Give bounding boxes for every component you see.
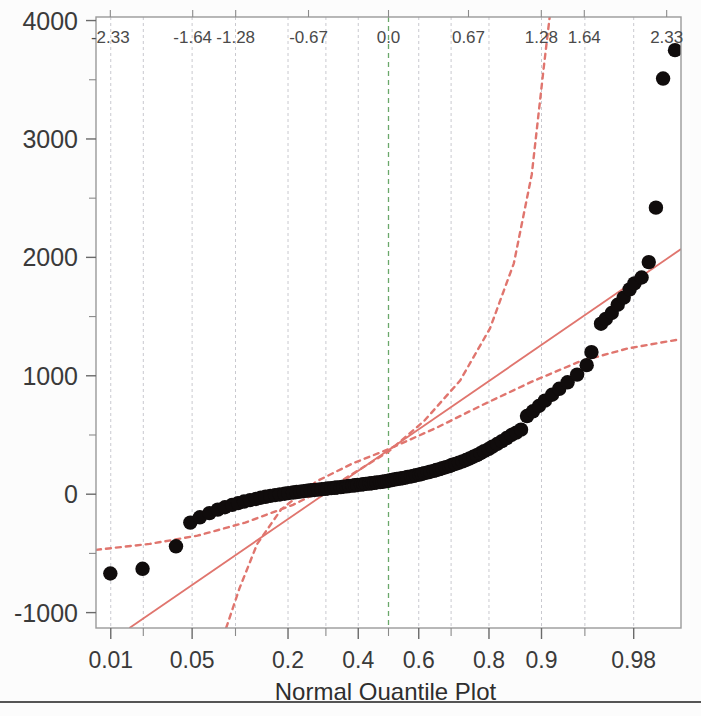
y-tick-label: -1000: [14, 599, 78, 627]
x-tick-label: 0.6: [403, 647, 435, 673]
data-point: [514, 422, 528, 436]
data-point: [135, 562, 149, 576]
y-tick-label: 2000: [22, 243, 78, 271]
x-tick-label: 0.01: [88, 647, 133, 673]
data-point: [579, 358, 593, 372]
top-tick-label: -2.33: [91, 28, 130, 47]
data-point: [103, 566, 117, 580]
top-tick-label: 1.28: [525, 28, 558, 47]
y-tick-label: 1000: [22, 362, 78, 390]
x-tick-label: 0.98: [611, 647, 656, 673]
data-point: [584, 345, 598, 359]
y-tick-label: 0: [64, 480, 78, 508]
top-tick-label: -1.28: [216, 28, 255, 47]
top-tick-label: -0.67: [289, 28, 328, 47]
top-tick-label: 0.67: [452, 28, 485, 47]
plot-area: 40003000200010000-10000.010.050.20.40.60…: [0, 0, 701, 700]
top-tick-label: -1.64: [173, 28, 212, 47]
data-point: [656, 71, 670, 85]
y-tick-label: 3000: [22, 125, 78, 153]
x-tick-label: 0.8: [473, 647, 505, 673]
top-tick-label: 2.33: [650, 28, 683, 47]
y-tick-label: 4000: [22, 7, 78, 35]
top-tick-label: 0.0: [377, 28, 401, 47]
x-tick-label: 0.05: [170, 647, 215, 673]
footer-divider: [0, 692, 701, 716]
chart-svg: 40003000200010000-10000.010.050.20.40.60…: [0, 0, 701, 700]
top-tick-label: 1.64: [568, 28, 601, 47]
data-point: [634, 270, 648, 284]
data-point: [169, 539, 183, 553]
x-tick-label: 0.4: [342, 647, 374, 673]
data-point: [642, 255, 656, 269]
x-tick-label: 0.9: [526, 647, 558, 673]
x-tick-label: 0.2: [272, 647, 304, 673]
normal-quantile-plot-screenshot: 40003000200010000-10000.010.050.20.40.60…: [0, 0, 701, 716]
data-point: [649, 200, 663, 214]
